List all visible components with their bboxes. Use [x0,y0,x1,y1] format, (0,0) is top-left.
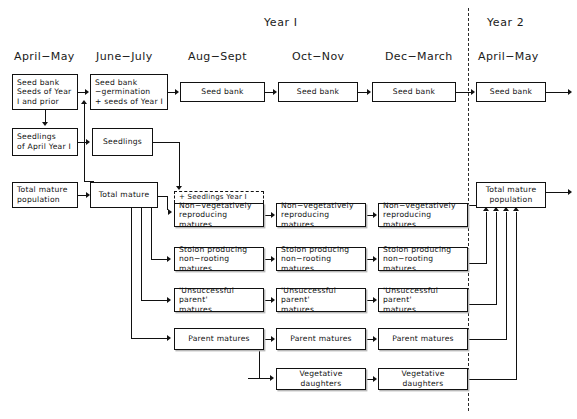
link-parent-to-vegdau-h [248,378,271,379]
node-parent-matures-dec-march[interactable]: Parent matures [378,328,468,350]
link-seedlings-to-tag-v [179,142,180,188]
arrowhead-right-icon [271,297,275,303]
link-stolon-oct-to-dec [366,259,373,260]
arrowhead-right-icon [373,212,377,218]
arrowhead-right-icon [568,189,572,195]
node-unsuccessful-parent-dec-march[interactable]: 'Unsuccessful parent' matures [378,288,468,312]
link-totmat-apr2-out [546,192,568,193]
node-stolon-dec-march[interactable]: Stolon producing non−rooting matures [378,247,468,271]
node-seedbank-june-july[interactable]: Seed bank −germination + seeds of Year I [90,74,168,110]
arrowhead-right-icon [373,297,377,303]
link-parent-dec-to-totmat-v [506,212,507,340]
link-feedback-riser [84,104,85,182]
link-totmat-branch-stolon-v [151,208,152,260]
arrowhead-right-icon [271,336,275,342]
node-seedbank-april-year1[interactable]: Seed bank Seeds of Year I and prior [12,74,78,110]
node-parent-matures-oct-nov[interactable]: Parent matures [276,328,366,350]
link-parent-oct-to-dec [366,339,373,340]
node-nonveg-oct-nov[interactable]: Non−vegetatively reproducing matures [276,203,366,227]
year-divider-line [468,8,469,411]
node-total-mature-population-april[interactable]: Total mature population [12,182,78,208]
link-unsucc-dec-to-totmat-h [468,304,497,305]
link-vegdau-oct-to-dec [366,379,373,380]
link-totmat-pop-to-jun [78,195,86,196]
arrowhead-right-icon [175,89,179,95]
link-seedbank-dec-to-apr2 [456,92,471,93]
link-totmat-branch-stolon-h [151,259,168,260]
link-seedbank-apr2-out [546,92,568,93]
link-seedlings-to-tag-h [153,142,180,143]
arrowhead-right-icon [167,297,171,303]
arrowhead-right-icon [367,89,371,95]
link-totmat-branch-unsucc-v [141,208,142,301]
column-header-april-may-2: April−May [478,50,539,63]
link-totmat-branch-parent-v [131,208,132,339]
arrowhead-right-icon [271,212,275,218]
node-seedbank-aug-sept[interactable]: Seed bank [180,82,265,102]
arrowhead-right-icon [271,256,275,262]
arrowhead-right-icon [86,139,90,145]
column-header-aug-sept: Aug−Sept [188,50,247,63]
arrowhead-right-icon [373,376,377,382]
column-header-june-july: June−July [96,50,153,63]
node-vegetative-daughters-dec-march[interactable]: Vegetative daughters [378,368,468,390]
year-label-1: Year I [264,16,298,29]
node-seedlings-june-july[interactable]: Seedlings [92,128,153,156]
arrowhead-right-icon [373,256,377,262]
link-parent-aug-to-oct [264,339,271,340]
node-unsuccessful-parent-aug-sept[interactable]: 'Unsuccessful parent' matures [174,288,264,312]
arrowhead-down-icon [42,122,48,126]
arrowhead-right-icon [85,89,89,95]
node-nonveg-aug-sept[interactable]: Non−vegetatively reproducing matures [174,203,264,227]
column-header-april-may-1: April−May [14,50,75,63]
column-header-dec-march: Dec−March [385,50,453,63]
arrowhead-down-icon [176,186,182,190]
link-seedbank-apr1-to-jun [78,92,85,93]
node-parent-matures-aug-sept[interactable]: Parent matures [174,328,264,350]
flow-diagram: Year I Year 2 April−May June−July Aug−Se… [0,0,577,419]
node-seedlings-april[interactable]: Seedlings of April Year I [12,128,78,156]
link-totmat-branch-unsucc-h [141,300,168,301]
arrowhead-right-icon [568,89,572,95]
link-seedlings-apr-to-jun [78,142,86,143]
link-stolon-aug-to-oct [264,259,271,260]
link-nonveg-oct-to-dec [366,215,373,216]
arrowhead-right-icon [270,375,274,381]
link-nonveg-aug-to-oct [264,215,271,216]
node-seedbank-april-year2[interactable]: Seed bank [476,82,546,102]
link-parent-dec-to-totmat-h [468,339,507,340]
link-vegdau-dec-to-totmat-v [516,212,517,380]
node-seedbank-oct-nov[interactable]: Seed bank [278,82,358,102]
link-totmat-to-nonveg-v [167,196,168,210]
node-total-mature-june-july[interactable]: Total mature [90,182,158,208]
node-unsuccessful-parent-oct-nov[interactable]: 'Unsuccessful parent' matures [276,288,366,312]
link-totmat-branch-parent-h [131,338,168,339]
link-parent-to-vegdau-v [259,350,260,379]
node-stolon-aug-sept[interactable]: Stolon producing non−rooting matures [174,247,264,271]
link-seedbank-oct-to-dec [358,92,367,93]
node-stolon-oct-nov[interactable]: Stolon producing non−rooting matures [276,247,366,271]
node-seedbank-dec-march[interactable]: Seed bank [372,82,456,102]
arrowhead-right-icon [167,256,171,262]
arrowhead-right-icon [168,209,172,215]
arrowhead-right-icon [273,89,277,95]
link-stolon-dec-to-totmat-h [468,263,487,264]
link-seedbank-jun-to-aug [168,92,175,93]
link-vegdau-dec-to-totmat-h [468,379,517,380]
link-stolon-dec-to-totmat-v [486,212,487,264]
node-vegetative-daughters-oct-nov[interactable]: Vegetative daughters [276,368,366,390]
link-unsucc-oct-to-dec [366,300,373,301]
node-total-mature-population-year2[interactable]: Total mature population [476,182,546,208]
arrowhead-right-icon [373,336,377,342]
column-header-oct-nov: Oct−Nov [292,50,345,63]
year-label-2: Year 2 [487,16,524,29]
node-nonveg-dec-march[interactable]: Non−vegetatively reproducing matures [378,203,468,227]
arrowhead-right-icon [167,335,171,341]
link-seedbank-aug-to-oct [265,92,273,93]
link-unsucc-dec-to-totmat-v [496,212,497,305]
link-unsucc-aug-to-oct [264,300,271,301]
arrowhead-up-icon [81,100,87,104]
arrowhead-right-icon [471,89,475,95]
